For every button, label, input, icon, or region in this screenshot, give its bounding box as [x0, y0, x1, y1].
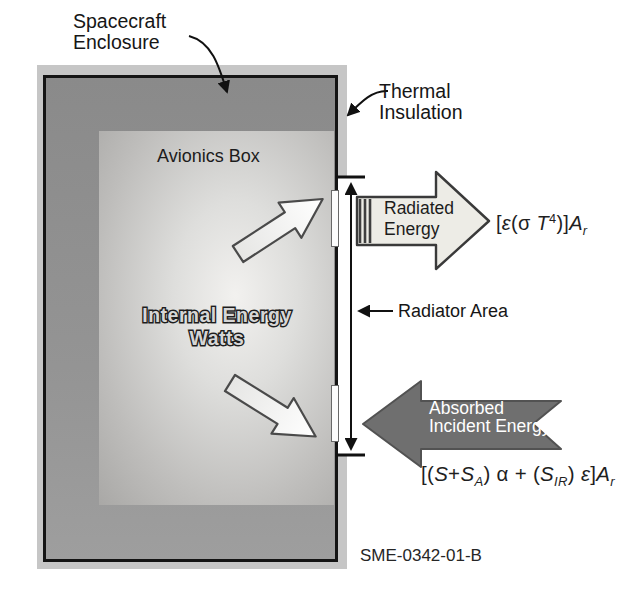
radiator-grille-icon	[360, 199, 370, 243]
spacecraft-enclosure-label-line1: Spacecraft	[73, 11, 166, 32]
avionics-box	[99, 131, 334, 505]
eq-radiated-epsilon: ε	[502, 212, 511, 234]
radiator-opening	[337, 178, 352, 456]
absorbed-energy-label-line1: Absorbed	[429, 400, 551, 418]
radiator-panel-bottom	[331, 385, 339, 442]
eq-absorbed-SA: S	[460, 462, 474, 485]
eq-absorbed-S: S	[434, 462, 448, 485]
eq-radiated-area-symbol: A	[569, 212, 583, 234]
eq-radiated-area-subscript: r	[583, 223, 588, 238]
radiator-area-label: Radiator Area	[398, 301, 508, 322]
eq-radiated-bracket-close: )]	[556, 212, 569, 234]
eq-absorbed-alpha-term: ) α + (	[483, 462, 540, 485]
eq-absorbed-area-subscript: r	[610, 474, 615, 489]
eq-absorbed-SIR: S	[540, 462, 554, 485]
thermal-diagram: Internal Energy Watts Spacecraft Enclosu…	[0, 0, 629, 592]
eq-absorbed-plus: +	[448, 462, 460, 485]
absorbed-energy-equation: [(S+SA) α + (SIR) ε]Ar	[421, 462, 615, 489]
absorbed-energy-label-line2: Incident Energy	[429, 418, 551, 436]
eq-absorbed-paren-close: )	[568, 462, 581, 485]
absorbed-energy-label: Absorbed Incident Energy	[429, 400, 551, 435]
avionics-box-label: Avionics Box	[157, 146, 260, 167]
radiated-energy-label-line2: Energy	[384, 219, 454, 240]
thermal-insulation-label-line1: Thermal	[379, 81, 462, 102]
radiated-energy-label-line1: Radiated	[384, 198, 454, 219]
radiated-energy-equation: [ε(σ T4)]Ar	[496, 211, 587, 238]
spacecraft-enclosure-label: Spacecraft Enclosure	[73, 11, 166, 53]
eq-radiated-T: T	[536, 212, 549, 234]
eq-absorbed-bracket-open: [(	[421, 462, 434, 485]
thermal-insulation-label: Thermal Insulation	[379, 81, 462, 123]
eq-absorbed-SIR-subscript: IR	[554, 474, 568, 489]
eq-absorbed-area-symbol: A	[596, 462, 610, 485]
spacecraft-enclosure-label-line2: Enclosure	[73, 32, 166, 53]
eq-absorbed-epsilon: ε	[581, 462, 590, 485]
radiator-panel-top	[331, 190, 339, 247]
thermal-insulation-label-line2: Insulation	[379, 102, 462, 123]
eq-radiated-sigma: (σ	[511, 212, 536, 234]
radiated-energy-label: Radiated Energy	[384, 198, 454, 239]
figure-id-label: SME-0342-01-B	[360, 545, 482, 566]
